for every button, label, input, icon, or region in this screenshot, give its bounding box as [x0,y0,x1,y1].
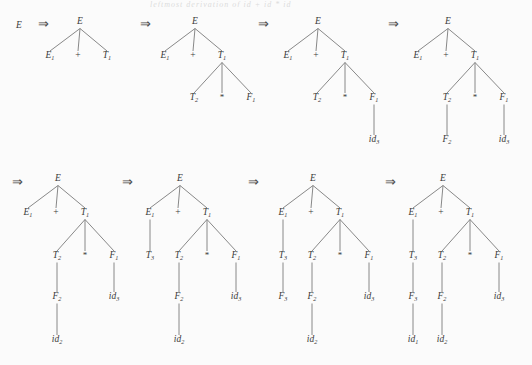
tree-edge-root-E-T1 [443,186,470,209]
tree-edge-root-E-plus [311,186,313,209]
tree-node-plus: + [313,50,318,60]
tree-node-E1: E1 [283,50,293,61]
tree-node-star: * [205,250,210,260]
tree-node-T1: T1 [203,207,211,218]
parse-tree-t5: EE1+T1T2*F1id3F2id2 [23,173,120,345]
arrow-5: ⇒ [122,174,133,189]
tree-edge-root-E-T1 [448,29,475,52]
tree-edge-root-E-plus [441,186,443,209]
arrow-2: ⇒ [258,16,269,31]
tree-node-star: * [338,250,343,260]
tree-edge-root-E-plus [178,186,180,209]
tree-node-F2: F2 [437,291,447,302]
parse-tree-t2: EE1+T1T2*F1 [160,16,256,103]
tree-edge-T1-T2 [179,220,207,252]
tree-edge-root-E-T1 [80,29,107,52]
tree-node-T1: T1 [336,207,344,218]
tree-node-root-E: E [439,173,446,183]
tree-node-T2: T2 [53,250,61,261]
tree-node-F3: F3 [278,291,288,302]
tree-node-F1: F1 [109,250,119,261]
arrow-6: ⇒ [248,174,259,189]
tree-edge-T1-T2 [312,220,340,252]
tree-node-id3: id3 [494,291,504,302]
tree-edge-root-E-plus [446,29,448,52]
tree-edge-T1-F1 [340,220,369,252]
tree-edge-root-E-E1 [165,29,195,52]
lead-symbols-layer: E [15,20,22,30]
tree-node-plus: + [308,207,313,217]
tree-node-T3: T3 [279,250,287,261]
tree-node-F1: F1 [364,250,374,261]
derivation-figure: ⇒⇒⇒⇒⇒⇒⇒⇒ E EE1+T1EE1+T1T2*F1EE1+T1T2*F1i… [0,0,532,365]
tree-edge-T1-T2 [57,220,85,252]
tree-node-T1: T1 [341,50,349,61]
tree-edge-T1-F1 [345,63,374,94]
tree-edge-T1-F1 [222,63,251,94]
tree-node-E1: E1 [408,207,418,218]
tree-node-F1: F1 [369,92,379,103]
start-symbol-E: E [15,20,22,30]
tree-edge-root-E-E1 [28,186,58,209]
tree-edge-T1-F1 [475,63,504,94]
tree-node-T1: T1 [218,50,226,61]
tree-node-id2: id2 [437,334,447,345]
tree-node-F2: F2 [52,291,62,302]
tree-node-F2: F2 [307,291,317,302]
tree-node-E1: E1 [23,207,33,218]
arrow-3: ⇒ [388,16,399,31]
tree-edge-root-E-E1 [150,186,180,209]
tree-node-E1: E1 [160,50,170,61]
tree-node-id3: id3 [364,291,374,302]
tree-edge-T1-F1 [207,220,236,252]
tree-node-E1: E1 [45,50,55,61]
tree-node-id3: id3 [499,134,509,145]
parse-tree-t3: EE1+T1T2*F1id3 [283,16,380,145]
tree-node-F3: F3 [408,291,418,302]
parse-trees-layer: EE1+T1EE1+T1T2*F1EE1+T1T2*F1id3EE1+T1T2*… [23,16,510,345]
tree-edge-root-E-E1 [413,186,443,209]
tree-edge-root-E-plus [316,29,318,52]
tree-node-root-E: E [76,16,83,26]
tree-edge-root-E-plus [56,186,58,209]
tree-edge-T1-T2 [194,63,222,94]
parse-tree-t6: EE1+T1T3T2*F1id3F2id2 [145,173,242,345]
arrow-4: ⇒ [12,174,23,189]
parse-tree-t7: EE1+T1T3F3T2*F1id3F2id2 [278,173,375,345]
tree-node-id2: id2 [174,334,184,345]
arrow-7: ⇒ [385,174,396,189]
tree-node-T1: T1 [103,50,111,61]
tree-edge-T1-F1 [470,220,499,252]
tree-edge-root-E-E1 [283,186,313,209]
tree-node-T3: T3 [409,250,417,261]
tree-edge-T1-F1 [85,220,114,252]
tree-node-F1: F1 [499,92,509,103]
tree-edge-root-E-T1 [180,186,207,209]
tree-node-E1: E1 [413,50,423,61]
tree-node-plus: + [53,207,58,217]
parse-tree-t4: EE1+T1T2*F1id3F2 [413,16,510,145]
tree-node-plus: + [443,50,448,60]
tree-node-star: * [83,250,88,260]
tree-node-F2: F2 [442,134,452,145]
tree-node-star: * [343,92,348,102]
tree-node-F1: F1 [494,250,504,261]
tree-node-T2: T2 [175,250,183,261]
tree-node-id2: id2 [52,334,62,345]
tree-node-T1: T1 [466,207,474,218]
tree-edge-root-E-E1 [418,29,448,52]
tree-node-T2: T2 [443,92,451,103]
derivation-arrows-layer: ⇒⇒⇒⇒⇒⇒⇒⇒ [12,16,399,189]
tree-node-T3: T3 [146,250,154,261]
tree-node-id3: id3 [231,291,241,302]
arrow-0: ⇒ [38,16,49,31]
tree-node-id1: id1 [408,334,418,345]
tree-edge-T1-T2 [447,63,475,94]
tree-node-star: * [473,92,478,102]
tree-edge-root-E-T1 [195,29,222,52]
tree-edge-root-E-T1 [318,29,345,52]
tree-node-root-E: E [314,16,321,26]
tree-node-plus: + [75,50,80,60]
tree-node-root-E: E [444,16,451,26]
tree-node-F1: F1 [246,92,256,103]
